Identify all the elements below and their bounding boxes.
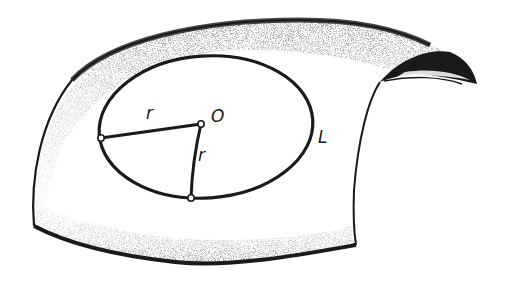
- center-point-o: [198, 121, 204, 127]
- label-radius-top: r: [146, 105, 153, 122]
- radius-endpoint-left: [98, 135, 104, 141]
- surface-diagram: [0, 0, 506, 284]
- label-radius-right: r: [198, 147, 205, 164]
- label-center-o: O: [211, 108, 224, 125]
- label-curve-l: L: [318, 129, 327, 146]
- curved-surface: [30, 18, 477, 270]
- radius-endpoint-bottom: [188, 195, 194, 201]
